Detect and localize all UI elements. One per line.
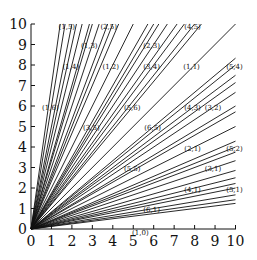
ray-label: (2,3) — [143, 42, 160, 50]
ray-label: (6,1) — [143, 206, 160, 214]
ray-label: (1,5) — [58, 23, 75, 31]
ray-label: (2,1) — [184, 145, 201, 153]
y-tick-label: 7 — [18, 78, 27, 94]
x-tick-label: 4 — [108, 233, 117, 249]
ray-label: (2,5) — [100, 23, 117, 31]
ray-label: (4,3) — [184, 104, 201, 112]
rays-chart: 012345678910012345678910 (1,5)(2,5)(4,5)… — [0, 0, 257, 260]
x-tick-label: 8 — [190, 233, 199, 249]
y-tick-label: 8 — [18, 57, 27, 73]
y-tick-label: 9 — [18, 37, 27, 53]
ray-label: (3,2) — [205, 104, 222, 112]
x-tick-label: 1 — [47, 233, 56, 249]
x-tick-label: 0 — [27, 233, 36, 249]
ray-label: (4,5) — [184, 23, 201, 31]
x-tick-label: 7 — [170, 233, 179, 249]
ray-label: (1,1) — [183, 63, 200, 71]
ray-label: (1,4) — [63, 63, 80, 71]
y-tick-label: 1 — [18, 201, 27, 217]
x-tick-label: 6 — [149, 233, 158, 249]
ray-label: (6,5) — [144, 124, 161, 132]
ray-label: (5,5) — [124, 165, 141, 173]
y-tick-label: 0 — [18, 221, 27, 237]
x-tick-label: 3 — [88, 233, 97, 249]
ray-label: (3,5) — [83, 124, 100, 132]
y-tick-label: 6 — [18, 98, 27, 114]
ray-label: (1,3) — [81, 42, 98, 50]
y-tick-label: 5 — [18, 119, 27, 135]
ray-label: (3,4) — [143, 63, 160, 71]
x-tick-label: 10 — [227, 233, 245, 249]
y-tick-label: 2 — [18, 180, 27, 196]
ray-label: (5,2) — [226, 145, 243, 153]
rays-layer — [31, 24, 236, 229]
ray-label: (5,6) — [124, 104, 141, 112]
ray-label: (1,6) — [42, 104, 59, 112]
x-tick-label: 2 — [67, 233, 76, 249]
ray-label: (1,0) — [132, 229, 149, 237]
ray-label: (5,4) — [226, 63, 243, 71]
x-tick-label: 9 — [211, 233, 220, 249]
ray-label: (1,2) — [102, 63, 119, 71]
ray-label: (4,1) — [184, 186, 201, 194]
y-tick-label: 4 — [18, 139, 27, 155]
y-tick-label: 3 — [18, 160, 27, 176]
ray-label: (5,1) — [226, 186, 243, 194]
y-tick-label: 10 — [9, 16, 27, 32]
ray-label: (3,1) — [205, 165, 222, 173]
